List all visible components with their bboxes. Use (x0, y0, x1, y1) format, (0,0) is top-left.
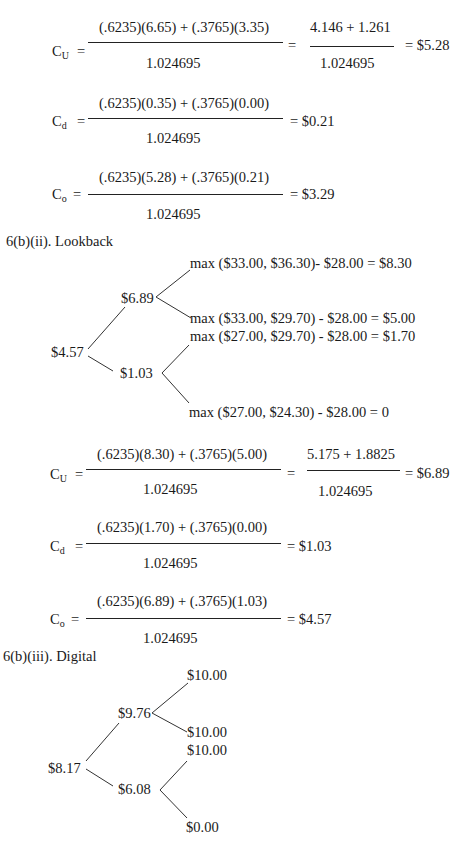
tree-branches (0, 0, 476, 859)
node-root: $8.17 (48, 761, 81, 776)
node-dd: $0.00 (186, 820, 219, 835)
node-ud: $10.00 (187, 725, 227, 740)
node-up: $9.76 (118, 706, 151, 721)
node-du: $10.00 (187, 743, 227, 758)
node-down: $6.08 (118, 782, 151, 797)
node-uu: $10.00 (187, 668, 227, 683)
